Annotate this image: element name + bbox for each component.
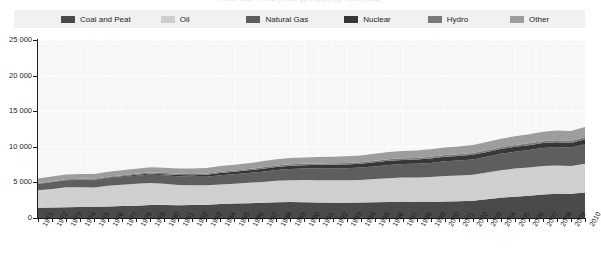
legend-item-nuclear[interactable]: Nuclear [344, 15, 391, 24]
legend-item-coal-and-peat[interactable]: Coal and Peat [61, 15, 131, 24]
x-axis-tick [431, 219, 432, 222]
legend-item-natural-gas[interactable]: Natural Gas [246, 15, 308, 24]
x-axis-tick [487, 219, 488, 222]
y-axis-tick [33, 218, 37, 219]
y-axis-tick [33, 76, 37, 77]
legend-item-other[interactable]: Other [510, 15, 549, 24]
y-axis-tick [33, 147, 37, 148]
plot-area [38, 40, 585, 218]
legend-item-label: Other [529, 15, 549, 24]
x-axis-tick [333, 219, 334, 222]
x-axis-tick [347, 219, 348, 222]
x-axis-tick [290, 219, 291, 222]
x-axis-tick [164, 219, 165, 222]
y-axis-tick-label: 0 [0, 214, 32, 222]
x-axis-tick [136, 219, 137, 222]
x-axis-tick [557, 219, 558, 222]
y-axis-tick-label: 5 000 [0, 178, 32, 186]
legend-swatch-icon [246, 16, 260, 23]
y-axis-line [37, 39, 38, 219]
y-axis-tick [33, 40, 37, 41]
legend-item-hydro[interactable]: Hydro [428, 15, 468, 24]
y-axis-tick-label: 10 000 [0, 143, 32, 151]
stacked-area-series [38, 40, 585, 218]
x-axis-tick [515, 219, 516, 222]
x-axis-tick [206, 219, 207, 222]
y-axis-tick-label: 25 000 [0, 36, 32, 44]
legend-item-label: Natural Gas [265, 15, 308, 24]
x-axis-tick [276, 219, 277, 222]
x-axis-tick [234, 219, 235, 222]
x-axis-tick [38, 219, 39, 222]
x-axis-tick [178, 219, 179, 222]
x-axis-tick [459, 219, 460, 222]
x-axis-tick [192, 219, 193, 222]
x-axis-tick [361, 219, 362, 222]
x-axis-tick [543, 219, 544, 222]
chart-legend: Coal and PeatOilNatural GasNuclearHydroO… [14, 10, 585, 28]
y-axis-tick [33, 182, 37, 183]
legend-item-label: Coal and Peat [80, 15, 131, 24]
legend-item-oil[interactable]: Oil [161, 15, 190, 24]
x-axis-tick [445, 219, 446, 222]
x-axis-tick [571, 219, 572, 222]
legend-swatch-icon [510, 16, 524, 23]
x-axis-tick [94, 219, 95, 222]
y-axis-tick-label: 20 000 [0, 72, 32, 80]
y-axis-tick [33, 111, 37, 112]
x-axis-tick [262, 219, 263, 222]
x-axis-tick [417, 219, 418, 222]
area-layers [38, 127, 585, 218]
y-axis-tick-label: 15 000 [0, 107, 32, 115]
x-axis-tick [66, 219, 67, 222]
x-axis-tick [304, 219, 305, 222]
x-axis-tick [122, 219, 123, 222]
x-axis-tick [150, 219, 151, 222]
x-axis-tick-label: 2010 [588, 211, 601, 228]
legend-swatch-icon [428, 16, 442, 23]
page-title: World Total Primary Energy Supply by Fue… [0, 0, 599, 2]
x-axis-tick [389, 219, 390, 222]
y-axis-labels: 25 00020 00015 00010 0005 0000 [0, 0, 32, 261]
legend-swatch-icon [344, 16, 358, 23]
x-axis-tick [403, 219, 404, 222]
x-axis-tick [501, 219, 502, 222]
legend-swatch-icon [61, 16, 75, 23]
x-axis-tick [248, 219, 249, 222]
x-axis-tick [80, 219, 81, 222]
x-axis-tick [108, 219, 109, 222]
x-axis-tick [585, 219, 586, 222]
x-axis-tick [220, 219, 221, 222]
x-axis-tick [319, 219, 320, 222]
x-axis-tick [52, 219, 53, 222]
x-axis-tick [529, 219, 530, 222]
chart-title-strip: World Total Primary Energy Supply by Fue… [0, 0, 599, 9]
legend-item-label: Oil [180, 15, 190, 24]
legend-swatch-icon [161, 16, 175, 23]
legend-item-label: Nuclear [363, 15, 391, 24]
x-axis-tick [375, 219, 376, 222]
x-axis-tick [473, 219, 474, 222]
legend-item-label: Hydro [447, 15, 468, 24]
